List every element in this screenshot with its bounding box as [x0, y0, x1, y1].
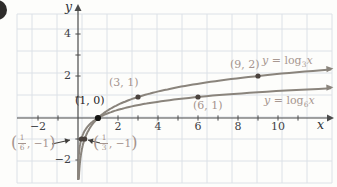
- x-tick-label: 6: [195, 121, 202, 132]
- point-dot: [79, 136, 84, 141]
- clipped-list-badge: [0, 0, 7, 20]
- x-tick-label: 4: [155, 121, 162, 132]
- y-tick-label: 4: [49, 28, 71, 39]
- coord-rest: , −1: [27, 138, 49, 149]
- point-label-6-1: (6, 1): [193, 100, 223, 112]
- x-tick-label: 8: [235, 121, 242, 132]
- paren-close: ): [49, 136, 55, 150]
- x-tick-label: −2: [30, 121, 46, 132]
- y-tick-label: 2: [49, 70, 71, 81]
- fn6-x: x: [308, 94, 314, 107]
- log-functions-figure: y x (1, 0) (3, 1) (9, 2) (6, 1) y = log3…: [0, 0, 337, 187]
- point-label-3-1: (3, 1): [109, 77, 139, 89]
- paren-open: (: [11, 136, 17, 150]
- y-axis-label: y: [65, 1, 72, 14]
- y-tick-label: −2: [49, 154, 71, 165]
- point-label-1-0: (1, 0): [75, 95, 105, 107]
- origin-point-dot: [95, 115, 101, 121]
- point-dot: [135, 94, 140, 99]
- x-axis-label: x: [317, 119, 324, 132]
- fraction-1-3: 13: [100, 134, 108, 152]
- x-tick-label: 10: [271, 121, 285, 132]
- paren-close: ): [131, 136, 137, 150]
- marked-points: [79, 73, 261, 141]
- curve-label-log6: y = log6x: [264, 95, 315, 107]
- point-dot: [255, 73, 260, 78]
- point-label-one-sixth: (16, −1): [11, 134, 55, 152]
- fn3-x: x: [306, 54, 312, 67]
- arrowhead: [327, 115, 334, 122]
- curve-label-log3: y = log3x: [262, 55, 313, 67]
- fn3-mid: = log: [268, 54, 301, 67]
- arrowhead: [75, 4, 82, 11]
- coord-rest: , −1: [109, 138, 131, 149]
- paren-open: (: [93, 136, 99, 150]
- point-label-9-2: (9, 2): [230, 59, 260, 71]
- fn6-mid: = log: [270, 94, 303, 107]
- point-label-one-third: (13, −1): [93, 134, 137, 152]
- x-tick-label: 2: [115, 121, 122, 132]
- fraction-1-6: 16: [18, 134, 26, 152]
